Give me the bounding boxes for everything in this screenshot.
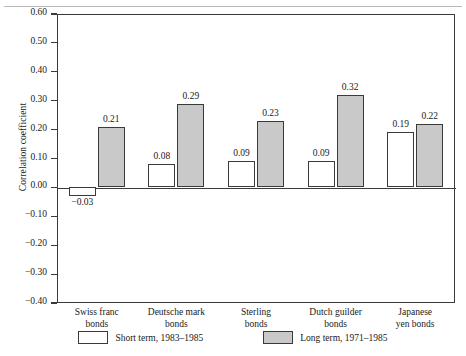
legend-label: Short term, 1983–1985 — [115, 333, 203, 343]
legend-item-short[interactable]: Short term, 1983–1985 — [78, 331, 203, 344]
y-axis-tick-label: 0.00 — [30, 180, 47, 190]
bar-value-label: 0.32 — [326, 82, 375, 92]
zero-baseline — [58, 188, 456, 189]
scan-rule-divider — [4, 6, 462, 7]
legend-label: Long term, 1971–1985 — [300, 333, 387, 343]
y-axis-tick-label: −0.40 — [25, 296, 47, 306]
bar-value-label: 0.22 — [405, 111, 454, 121]
bar-long — [337, 95, 364, 187]
y-axis-tick-label: −0.10 — [25, 209, 47, 219]
y-axis-tick-mark — [51, 13, 57, 14]
y-axis-tick-label: 0.20 — [30, 123, 47, 133]
legend-item-long[interactable]: Long term, 1971–1985 — [263, 331, 387, 344]
y-axis-title: Correlation coefficient — [18, 67, 28, 227]
bar-value-label: 0.21 — [87, 114, 136, 124]
bar-long — [98, 127, 125, 188]
y-axis-tick-label: −0.30 — [25, 267, 47, 277]
bar-short — [387, 132, 414, 187]
category-label-line: yen bonds — [363, 319, 466, 331]
y-axis-tick-mark — [51, 42, 57, 43]
bar-short — [228, 161, 255, 187]
bar-short — [148, 164, 175, 187]
bar-long — [257, 121, 284, 187]
bar-long — [177, 104, 204, 188]
x-axis-category-label: Japaneseyen bonds — [363, 307, 466, 330]
y-axis-tick-label: 0.10 — [30, 152, 47, 162]
legend-swatch-short — [78, 331, 108, 344]
y-axis-tick-mark — [51, 302, 57, 303]
y-axis-tick-mark — [51, 71, 57, 72]
y-axis-tick-mark — [51, 245, 57, 246]
y-axis-tick-label: 0.30 — [30, 94, 47, 104]
y-axis-tick-mark — [51, 187, 57, 188]
bar-short — [308, 161, 335, 187]
y-axis-tick-mark — [51, 216, 57, 217]
legend-swatch-long — [263, 331, 293, 344]
y-axis-tick-mark — [51, 100, 57, 101]
category-label-line: Japanese — [363, 307, 466, 319]
y-axis-tick-mark — [51, 129, 57, 130]
bar-long — [416, 124, 443, 188]
bar-value-label: −0.03 — [58, 197, 107, 207]
y-axis-tick-mark — [51, 274, 57, 275]
y-axis-tick-label: −0.20 — [25, 238, 47, 248]
bar-value-label: 0.23 — [246, 108, 295, 118]
chart-legend: Short term, 1983–1985Long term, 1971–198… — [0, 331, 466, 344]
bar-value-label: 0.29 — [166, 91, 215, 101]
bar-chart-figure: Correlation coefficient 0.600.500.400.30… — [0, 0, 466, 356]
y-axis-tick-label: 0.50 — [30, 36, 47, 46]
bar-short — [69, 187, 96, 196]
y-axis-tick-label: 0.60 — [30, 7, 47, 17]
y-axis-tick-label: 0.40 — [30, 65, 47, 75]
y-axis-tick-mark — [51, 158, 57, 159]
